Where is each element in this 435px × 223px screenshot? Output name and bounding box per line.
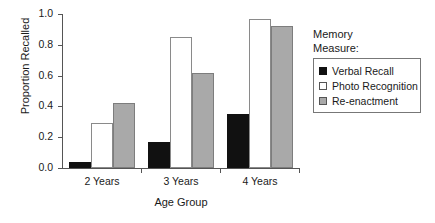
y-tick-4: 0.8 (58, 45, 62, 46)
bar-4-years-photo-recognition (249, 19, 271, 168)
y-tick-label-2: 0.4 (38, 99, 53, 112)
y-tick-label-0: 0.0 (38, 161, 53, 174)
plot-area: 0.0 0.2 0.4 0.6 0.8 1.0 2 Years (62, 14, 300, 168)
y-axis-line (62, 14, 63, 168)
x-axis-label-2-years: 2 Years (57, 175, 147, 187)
x-tick-separator-2 (220, 168, 221, 173)
legend-label-re-enactment: Re-enactment (332, 95, 398, 107)
bar-2-years-verbal-recall (69, 162, 91, 168)
legend-title-line-1: Memory (313, 27, 359, 41)
y-tick-label-1: 0.2 (38, 130, 53, 143)
bar-3-years-photo-recognition (170, 37, 192, 168)
y-tick-0: 0.0 (58, 168, 62, 169)
y-tick-1: 0.2 (58, 137, 62, 138)
legend-item-photo-recognition: Photo Recognition (319, 78, 416, 93)
bar-3-years-verbal-recall (148, 142, 170, 168)
x-tick-separator-1 (141, 168, 142, 173)
bar-group-2-years: 2 Years (69, 14, 135, 168)
legend-swatch-photo-recognition (319, 82, 327, 90)
legend-swatch-re-enactment (319, 97, 327, 105)
y-tick-label-4: 0.8 (38, 38, 53, 51)
bar-group-3-years: 3 Years (148, 14, 214, 168)
y-tick-5: 1.0 (58, 14, 62, 15)
x-axis-label-4-years: 4 Years (215, 175, 305, 187)
y-tick-label-3: 0.6 (38, 69, 53, 82)
bar-2-years-photo-recognition (91, 123, 113, 168)
x-axis-label-3-years: 3 Years (136, 175, 226, 187)
legend-item-verbal-recall: Verbal Recall (319, 63, 416, 78)
bar-4-years-re-enactment (271, 26, 293, 168)
y-tick-3: 0.6 (58, 76, 62, 77)
bar-2-years-re-enactment (113, 103, 135, 168)
legend-item-re-enactment: Re-enactment (319, 93, 416, 108)
legend-title: Memory Measure: (313, 27, 359, 55)
bar-chart-figure: Proportion Recalled 0.0 0.2 0.4 0.6 0.8 … (0, 0, 435, 223)
y-tick-label-5: 1.0 (38, 7, 53, 20)
x-tick-separator-3 (299, 168, 300, 173)
y-axis-title: Proportion Recalled (19, 0, 31, 136)
bar-4-years-verbal-recall (227, 114, 249, 168)
bar-3-years-re-enactment (192, 73, 214, 168)
x-axis-line (62, 168, 300, 169)
x-axis-title: Age Group (62, 196, 300, 208)
legend-label-verbal-recall: Verbal Recall (332, 65, 394, 77)
legend: Verbal Recall Photo Recognition Re-enact… (313, 58, 421, 113)
y-tick-2: 0.4 (58, 106, 62, 107)
bar-group-4-years: 4 Years (227, 14, 293, 168)
legend-title-line-2: Measure: (313, 41, 359, 55)
legend-label-photo-recognition: Photo Recognition (332, 80, 418, 92)
legend-swatch-verbal-recall (319, 67, 327, 75)
